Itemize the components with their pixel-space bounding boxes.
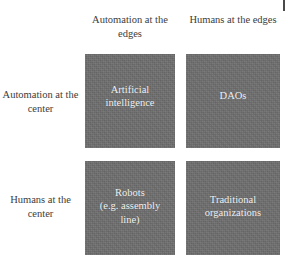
matrix-cell-daos: DAOs <box>186 54 280 148</box>
matrix-cell-label: Artificial intelligence <box>103 83 158 110</box>
page-edge-mark <box>283 0 285 11</box>
matrix-cell-label: Robots (e.g. assembly line) <box>97 186 163 227</box>
matrix-cell-robots: Robots (e.g. assembly line) <box>85 161 175 255</box>
column-header-automation-at-the-edges: Automation at the edges <box>85 13 175 40</box>
matrix-cell-label: Traditional organizations <box>202 193 264 220</box>
matrix-cell-artificial-intelligence: Artificial intelligence <box>85 54 175 148</box>
matrix-cell-traditional-organizations: Traditional organizations <box>186 161 280 255</box>
column-header-humans-at-the-edges: Humans at the edges <box>186 13 280 27</box>
row-header-automation-at-the-center: Automation at the center <box>0 88 81 115</box>
matrix-cell-label: DAOs <box>217 89 250 103</box>
row-header-humans-at-the-center: Humans at the center <box>0 193 81 220</box>
matrix-figure: Automation at the edges Humans at the ed… <box>0 0 293 268</box>
